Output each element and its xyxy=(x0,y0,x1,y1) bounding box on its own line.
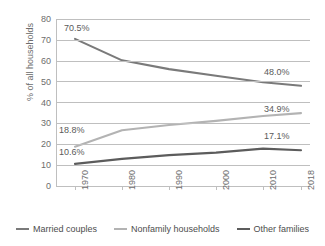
legend-label-other-families: Other families xyxy=(254,224,310,234)
y-tick-label-40: 40 xyxy=(27,99,51,108)
y-tick-label-10: 10 xyxy=(27,161,51,170)
chart-legend: Married couples Nonfamily households Oth… xyxy=(0,224,325,234)
gridline-50 xyxy=(57,81,310,82)
data-label-nonfamily-2018: 34.9% xyxy=(264,105,290,114)
y-tick-label-0: 0 xyxy=(27,182,51,191)
legend-label-married-couples: Married couples xyxy=(33,224,97,234)
gridline-60 xyxy=(57,61,310,62)
line-nonfamily-households xyxy=(75,113,301,147)
gridline-70 xyxy=(57,40,310,41)
gridline-20 xyxy=(57,144,310,145)
data-label-married-1970: 70.5% xyxy=(64,24,90,33)
legend-label-nonfamily-households: Nonfamily households xyxy=(131,224,220,234)
x-tick-label-1990: 1990 xyxy=(174,150,184,190)
x-tickmark-1970 xyxy=(75,186,76,190)
x-tick-label-1980: 1980 xyxy=(127,150,137,190)
x-tickmark-2000 xyxy=(216,186,217,190)
x-tick-label-2000: 2000 xyxy=(221,150,231,190)
y-tick-label-20: 20 xyxy=(27,140,51,149)
data-label-nonfamily-1970: 18.8% xyxy=(59,126,85,135)
legend-line-icon-nonfamily-households xyxy=(114,228,127,230)
gridline-80 xyxy=(57,19,310,20)
legend-line-icon-married-couples xyxy=(16,228,29,230)
gridline-40 xyxy=(57,102,310,103)
y-tick-label-70: 70 xyxy=(27,36,51,45)
legend-line-icon-other-families xyxy=(237,228,250,230)
y-tick-label-50: 50 xyxy=(27,78,51,87)
x-tickmark-2018 xyxy=(301,186,302,190)
x-tickmark-1990 xyxy=(169,186,170,190)
data-label-married-2018: 48.0% xyxy=(264,68,290,77)
legend-item-other-families[interactable]: Other families xyxy=(237,224,310,234)
gridline-30 xyxy=(57,123,310,124)
x-tick-label-2018: 2018 xyxy=(306,150,316,190)
x-tick-label-2010: 2010 xyxy=(268,150,278,190)
y-tick-label-80: 80 xyxy=(27,15,51,24)
line-married-couples xyxy=(75,39,301,86)
x-tickmark-1980 xyxy=(122,186,123,190)
x-tickmark-2010 xyxy=(263,186,264,190)
legend-item-nonfamily-households[interactable]: Nonfamily households xyxy=(114,224,220,234)
y-tick-label-60: 60 xyxy=(27,57,51,66)
legend-item-married-couples[interactable]: Married couples xyxy=(16,224,97,234)
data-label-other-1970: 10.6% xyxy=(59,148,85,157)
line-chart: % of all households 80 70 60 50 40 30 20… xyxy=(0,0,325,246)
data-label-other-2018: 17.1% xyxy=(264,132,290,141)
y-tick-label-30: 30 xyxy=(27,119,51,128)
